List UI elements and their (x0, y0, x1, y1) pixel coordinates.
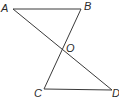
label-b: B (84, 0, 91, 12)
label-d: D (112, 87, 119, 99)
label-o: O (66, 42, 75, 54)
label-a: A (0, 2, 8, 14)
geometry-diagram: A B O C D (0, 0, 119, 101)
segment-cd (44, 89, 112, 90)
segment-bc (44, 9, 81, 89)
label-c: C (34, 87, 42, 99)
